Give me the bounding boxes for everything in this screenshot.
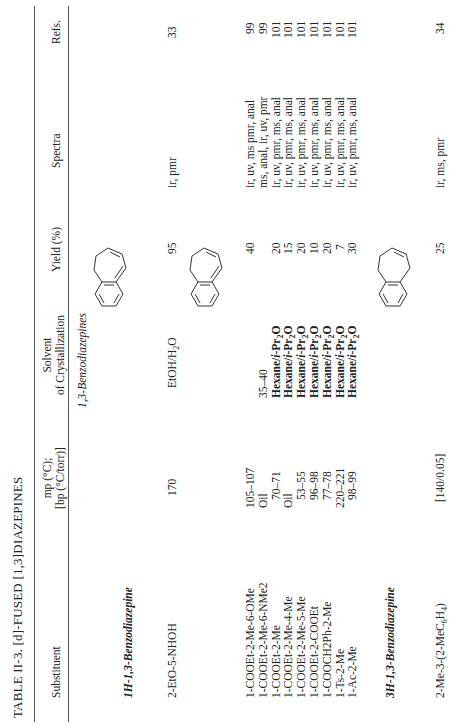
table-row-yield: 7: [334, 244, 347, 250]
table-row-refs: 101: [282, 21, 295, 38]
benzodiazepine-structure: [178, 230, 242, 320]
table-row-mp: 53–55: [295, 471, 308, 500]
table-row-spectra: ir, uv, pmr, ms, anal: [346, 97, 359, 188]
table-row-refs: 101: [334, 21, 347, 38]
col-header-substituent: Substituent: [50, 646, 63, 698]
table-row-refs: 101: [346, 21, 359, 38]
table-row-substituent: 1-COOEt-2-COOEt: [308, 606, 321, 698]
table-row-solvent: 35–40: [257, 369, 270, 398]
rotated-table-page: TABLE II-3. [d]-FUSED [1,3]DIAZEPINES Su…: [0, 0, 471, 728]
table-row-yield: 20: [321, 243, 334, 255]
table-row-mp: 220–221: [334, 468, 347, 508]
col-header-spectra: Spectra: [50, 134, 63, 168]
table-row-substituent: 1-COOEt-2-Me-5-Me: [295, 596, 308, 698]
cell-substituent: 2-EtO-5-NHOH: [166, 623, 179, 698]
cell-yield: 25: [434, 243, 447, 255]
table-row-spectra: ir, uv, pmr, ms, anal: [334, 97, 347, 188]
table-row-yield: 15: [282, 243, 295, 255]
table-row-substituent: 1-COOEt-2-Me-6-OMe: [244, 588, 257, 698]
table-row-spectra: ir, uv, pmr, ms, anal: [270, 97, 283, 188]
col-header-mp: mp (°C); [bp (°C/torr)]: [41, 433, 67, 523]
cell-refs: 34: [434, 23, 447, 35]
table-row-refs: 101: [295, 21, 308, 38]
col-header-yield: Yield (%): [50, 227, 63, 272]
table-row-mp: 105–107: [244, 468, 257, 508]
table-row-yield: 40: [244, 243, 257, 255]
cell-solvent: EtOH/H2O: [166, 337, 179, 388]
col-header-mp-line2: [bp (°C/torr)]: [54, 433, 67, 523]
col-header-solvent-line1: Solvent: [41, 300, 54, 410]
3h-benzodiazepine-structure: [366, 230, 430, 320]
header-top-rule: [34, 6, 35, 722]
section-heading: 1,3-Benzodiazepines: [76, 313, 88, 408]
cell-substituent: 2-Me-3-(2-MeC6H4): [434, 603, 447, 698]
cell-spectra: ir, pmr: [166, 157, 179, 188]
table-row-mp: 77–78: [321, 471, 334, 500]
table-title: TABLE II-3. [d]-FUSED [1,3]DIAZEPINES: [10, 477, 26, 718]
col-header-refs: Refs.: [50, 20, 63, 44]
cell-yield: 95: [166, 243, 179, 255]
table-row-refs: 101: [321, 21, 334, 38]
table-row-yield: 10: [308, 243, 321, 255]
table-row-solvent: Hexane/i-Pr2O: [295, 326, 308, 398]
table-row-mp: 96–98: [308, 471, 321, 500]
table-row-solvent: Hexane/i-Pr2O: [334, 326, 347, 398]
cell-mp: 170: [166, 479, 179, 496]
table-row-substituent: 1-Ts-2-Me: [334, 649, 347, 698]
table-row-spectra: ir, uv, ms pmr, anal: [244, 100, 257, 188]
table-row-refs: 99: [257, 23, 270, 35]
table-row-substituent: 1-COOCH2Ph-2-Me: [321, 602, 334, 698]
table-row-refs: 101: [308, 21, 321, 38]
table-row-spectra: ir, uv, pmr, ms, anal: [321, 97, 334, 188]
table-row-mp: Oil: [257, 493, 270, 508]
table-row-solvent: Hexane/i-Pr2O: [346, 326, 359, 398]
group-heading-1h: 1H-1,3-Benzodiazepine: [122, 587, 134, 698]
table-row-substituent: 1-Ac-2-Me: [346, 646, 359, 698]
table-row-mp: 98–99: [346, 471, 359, 500]
table-row-yield: 20: [270, 243, 283, 255]
col-header-solvent-line2: of Crystallization: [54, 300, 67, 410]
table-row-mp: 70–71: [270, 471, 283, 500]
table-row-spectra: ir, uv, pmr, ms, anal: [308, 97, 321, 188]
group-heading-3h: 3H-1,3-Benzodiazepine: [384, 587, 396, 698]
cell-spectra: ir, ms, pmr: [434, 138, 447, 188]
table-row-substituent: 1-COOEt-2-Me-6-NMe2: [257, 582, 270, 698]
table-row-substituent: 1-COOEt-2-Me: [270, 625, 283, 698]
table-row-refs: 99: [244, 23, 257, 35]
table-row-solvent: Hexane/i-Pr2O: [308, 326, 321, 398]
table-row-solvent: Hexane/i-Pr2O: [282, 326, 295, 398]
table-row-yield: 20: [295, 243, 308, 255]
col-header-mp-line1: mp (°C);: [41, 433, 54, 523]
cell-mp: [140/0.05]: [434, 454, 447, 502]
table-row-mp: Oil: [282, 493, 295, 508]
table-row-solvent: Hexane/i-Pr2O: [270, 326, 283, 398]
table-row-spectra: ir, uv, pmr, ms, anal: [282, 97, 295, 188]
table-row-spectra: ir, uv, pmr, ms, anal: [295, 97, 308, 188]
table-row-solvent: Hexane/i-Pr2O: [321, 326, 334, 398]
header-bottom-rule: [68, 6, 69, 722]
benzodiazepine-numbered-structure: [82, 230, 146, 320]
table-row-yield: 30: [346, 243, 359, 255]
cell-refs: 33: [166, 27, 179, 39]
col-header-solvent: Solvent of Crystallization: [41, 300, 67, 410]
table-row-refs: 101: [270, 21, 283, 38]
table-row-spectra: ms, anal, ir, uv, pmr: [257, 97, 270, 188]
table-row-substituent: 1-COOEt-2-Me-4-Me: [282, 596, 295, 698]
